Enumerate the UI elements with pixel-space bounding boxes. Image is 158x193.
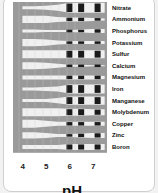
x-tick-label: 5 <box>44 162 49 171</box>
cell-phosphorus-6.5 <box>78 30 84 33</box>
cell-sulfur-7.2 <box>95 51 101 58</box>
cell-sulfur-6.5 <box>78 51 84 58</box>
cell-magnesium-6 <box>66 76 72 79</box>
cell-boron-7.2 <box>95 144 101 149</box>
cell-boron-6.5 <box>78 144 84 149</box>
cell-potassium-6 <box>66 41 72 44</box>
cell-potassium-7.2 <box>95 41 101 44</box>
x-tick-label: 4 <box>20 162 25 171</box>
band-magnesium <box>22 75 104 79</box>
cell-zinc-7.2 <box>95 133 101 137</box>
cell-magnesium-6.5 <box>78 76 84 79</box>
x-tick-label: 6 <box>67 162 72 171</box>
x-tick-label: 7 <box>91 162 96 171</box>
nutrient-label: Zinc <box>112 132 125 138</box>
cell-calcium-7.2 <box>95 65 101 68</box>
cell-molybdenum-6.5 <box>78 109 84 115</box>
cell-magnesium-7.2 <box>95 76 101 79</box>
nutrient-label: Boron <box>112 144 130 150</box>
cell-nitrate-6 <box>66 4 72 13</box>
cell-sulfur-6 <box>66 51 72 58</box>
cell-zinc-6 <box>66 134 72 137</box>
cell-ammonium-6.5 <box>78 18 84 21</box>
nutrient-label: Manganese <box>112 98 145 104</box>
cell-calcium-6.5 <box>78 65 84 68</box>
cell-ammonium-7.2 <box>95 18 101 21</box>
cell-copper-6 <box>66 122 72 125</box>
nutrient-label: Potassium <box>112 40 142 46</box>
band-molybdenum <box>22 108 104 116</box>
nutrient-label: Molybdenum <box>112 109 149 115</box>
cell-manganese-6.5 <box>78 97 84 104</box>
x-axis-label: pH <box>62 182 82 193</box>
cell-nitrate-7.2 <box>95 4 101 13</box>
cell-copper-7.2 <box>95 122 101 125</box>
nutrient-label: Ammonium <box>112 16 145 22</box>
cell-copper-6.5 <box>78 122 84 125</box>
cell-boron-6 <box>66 144 72 149</box>
nutrient-label: Calcium <box>112 63 135 69</box>
cell-phosphorus-6 <box>66 30 72 33</box>
cell-phosphorus-7.2 <box>95 29 101 32</box>
cell-ammonium-6 <box>66 18 72 21</box>
nutrient-label: Iron <box>112 86 124 92</box>
cell-potassium-6.5 <box>78 41 84 44</box>
nutrient-label: Sulfur <box>112 51 130 57</box>
cell-iron-7.2 <box>95 85 101 93</box>
nutrient-label: Phosphorus <box>112 28 148 34</box>
nutrient-label: Nitrate <box>112 5 132 11</box>
band-sulfur <box>22 50 104 58</box>
cell-iron-6.5 <box>78 85 84 93</box>
cell-manganese-6 <box>66 97 72 104</box>
cell-molybdenum-6 <box>66 109 72 115</box>
cell-molybdenum-7.2 <box>95 110 101 115</box>
cell-nitrate-6.5 <box>78 4 84 13</box>
nutrient-label: Magnesium <box>112 74 145 80</box>
cell-iron-6 <box>66 85 72 93</box>
nutrient-label: Copper <box>112 121 134 127</box>
nutrient-ph-chart: NitrateAmmoniumPhosphorusPotassiumSulfur… <box>0 0 158 193</box>
cell-calcium-6 <box>66 65 72 68</box>
cell-zinc-6.5 <box>78 134 84 137</box>
cell-manganese-7.2 <box>95 97 101 104</box>
